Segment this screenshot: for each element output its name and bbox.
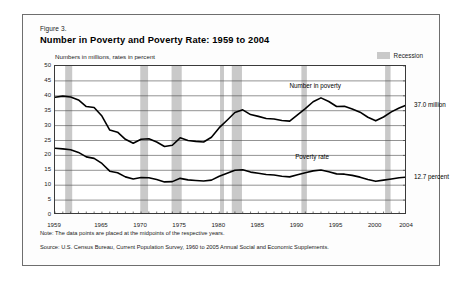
y-tick-label: 35 — [44, 107, 51, 113]
series-line — [55, 148, 406, 182]
x-tick-label: 1980 — [211, 221, 225, 228]
x-tick-label: 1990 — [290, 221, 304, 228]
recession-band — [65, 66, 72, 214]
y-tick-label: 40 — [44, 92, 51, 98]
y-tick-label: 5 — [48, 196, 51, 202]
x-tick-label: 1975 — [172, 221, 186, 228]
recession-band — [220, 66, 224, 214]
y-tick-label: 15 — [44, 166, 51, 172]
chart-plot-area — [54, 65, 406, 214]
y-tick-label: 50 — [44, 62, 51, 68]
x-tick-label: 2000 — [368, 221, 382, 228]
x-tick-label: 1965 — [94, 221, 108, 228]
end-label-poverty-rate: 12.7 percent — [414, 173, 449, 180]
x-tick-label: 1995 — [329, 221, 343, 228]
annotation-poverty-rate: Poverty rate — [295, 153, 329, 160]
y-tick-label: 30 — [44, 122, 51, 128]
x-tick-label: 1985 — [251, 221, 265, 228]
y-tick-label: 25 — [44, 137, 51, 143]
x-tick-label: 1959 — [47, 221, 61, 228]
figure-frame: Figure 3. Number in Poverty and Poverty … — [22, 14, 440, 266]
chart-legend: Recession — [377, 52, 423, 59]
poverty-chart-svg — [55, 66, 406, 214]
x-tick-label: 1970 — [133, 221, 147, 228]
y-tick-label: 0 — [48, 211, 51, 217]
figure-source: Source: U.S. Census Bureau, Current Popu… — [40, 244, 329, 250]
legend-label-recession: Recession — [394, 52, 423, 59]
end-label-number-in-poverty: 37.0 million — [414, 100, 446, 107]
figure-number: Figure 3. — [40, 25, 67, 32]
page-title: Number in Poverty and Poverty Rate: 1959… — [40, 35, 269, 45]
y-tick-label: 45 — [44, 77, 51, 83]
y-tick-label: 10 — [44, 181, 51, 187]
x-tick-label: 2004 — [399, 221, 413, 228]
series-line — [55, 96, 406, 146]
chart-plot-wrapper: 05101520253035404550 1959196519701975198… — [54, 65, 406, 214]
y-tick-label: 20 — [44, 151, 51, 157]
recession-band — [232, 66, 242, 214]
recession-band — [172, 66, 182, 214]
axis-units-note: Numbers in millions, rates in percent — [55, 53, 155, 60]
annotation-number-in-poverty: Number in poverty — [290, 82, 341, 89]
recession-swatch-icon — [377, 52, 390, 59]
recession-band — [385, 66, 390, 214]
figure-note: Note: The data points are placed at the … — [40, 230, 225, 236]
